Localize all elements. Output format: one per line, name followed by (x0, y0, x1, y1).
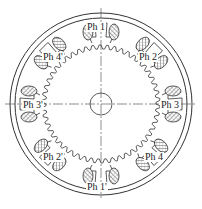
label-ph2p: Ph 2' (42, 152, 64, 162)
coil (165, 112, 181, 122)
stepper-motor-diagram: Ph 1 Ph 2 Ph 4' Ph 3' Ph 3 Ph 2' Ph 4 Ph… (0, 0, 202, 209)
coil (21, 86, 37, 96)
label-ph1: Ph 1 (86, 22, 106, 32)
label-ph4p: Ph 4' (42, 52, 64, 62)
coil (21, 112, 37, 122)
label-ph1p: Ph 1' (86, 182, 108, 192)
label-ph2: Ph 2 (138, 52, 158, 62)
label-ph3p: Ph 3' (22, 100, 44, 110)
coil (109, 168, 119, 184)
label-ph3: Ph 3 (160, 100, 180, 110)
coil (165, 86, 181, 96)
label-ph4: Ph 4 (144, 152, 164, 162)
coil (109, 24, 119, 40)
